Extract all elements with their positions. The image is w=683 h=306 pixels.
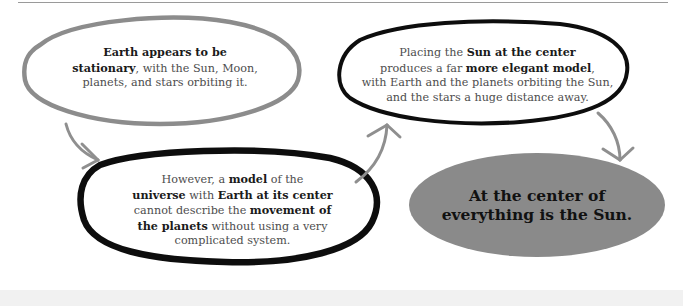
bold-phrase: more elegant model bbox=[466, 61, 591, 75]
text-span: However, a bbox=[162, 173, 229, 186]
text-conclusion: At the center of everything is the Sun. bbox=[420, 186, 654, 224]
bottom-band bbox=[0, 290, 683, 306]
text-span: planets, and stars orbiting it. bbox=[82, 76, 247, 89]
text-span: cannot describe the bbox=[134, 204, 250, 217]
text-span: produces a far bbox=[380, 62, 466, 75]
text-heliocentric-model: Placing the Sun at the center produces a… bbox=[350, 45, 625, 105]
bold-phrase: universe bbox=[132, 188, 185, 202]
arrow-down-icon bbox=[598, 113, 633, 160]
text-span: without using a very bbox=[208, 220, 328, 233]
text-span: , bbox=[591, 62, 595, 75]
arrow-down-icon bbox=[66, 124, 98, 168]
bold-phrase: stationary bbox=[72, 61, 135, 75]
text-geocentric-problem: However, a model of the universe with Ea… bbox=[100, 172, 365, 249]
bold-phrase: the planets bbox=[137, 219, 207, 233]
bold-phrase: model bbox=[229, 172, 268, 186]
text-span: Placing the bbox=[399, 46, 466, 59]
text-span: with Earth and the planets orbiting the … bbox=[362, 76, 614, 89]
bold-phrase: movement of bbox=[250, 203, 331, 217]
text-span: of the bbox=[267, 173, 303, 186]
text-span: , with the Sun, Moon, bbox=[136, 62, 258, 75]
text-geocentric-observation: Earth appears to be stationary, with the… bbox=[40, 45, 290, 91]
conclusion-line: everything is the Sun. bbox=[442, 205, 633, 224]
text-span: complicated system. bbox=[175, 234, 291, 247]
bold-phrase: Earth appears to be bbox=[103, 45, 227, 59]
conclusion-line: At the center of bbox=[469, 186, 605, 205]
text-span: with bbox=[186, 189, 218, 202]
text-span: and the stars a huge distance away. bbox=[386, 91, 589, 104]
bold-phrase: Earth at its center bbox=[218, 188, 333, 202]
bold-phrase: Sun at the center bbox=[467, 45, 576, 59]
